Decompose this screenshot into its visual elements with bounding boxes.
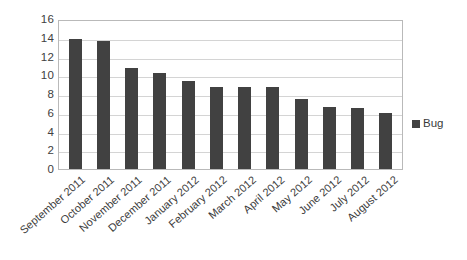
bar-slot <box>259 21 287 169</box>
y-axis-tick: 4 <box>47 127 54 139</box>
y-axis-tick: 14 <box>41 33 54 45</box>
chart-legend: Bug <box>412 118 443 130</box>
bar-slot <box>146 21 174 169</box>
bar-slot <box>344 21 372 169</box>
y-axis-tick: 6 <box>47 108 54 120</box>
bar[interactable] <box>210 87 223 169</box>
y-axis-tick: 2 <box>47 146 54 158</box>
y-axis-tick: 16 <box>41 14 54 26</box>
bar-slot <box>202 21 230 169</box>
bar[interactable] <box>69 39 82 169</box>
bar-slot <box>315 21 343 169</box>
x-axis: September 2011October 2011November 2011D… <box>58 170 403 258</box>
y-axis: 1614121086420 <box>22 20 54 170</box>
bar[interactable] <box>351 108 364 169</box>
y-axis-tick: 12 <box>41 52 54 64</box>
bar[interactable] <box>153 73 166 169</box>
bar[interactable] <box>295 99 308 169</box>
y-axis-tick: 8 <box>47 89 54 101</box>
y-axis-tick: 0 <box>47 164 54 176</box>
bar[interactable] <box>323 107 336 169</box>
bar-series-bug <box>59 21 402 169</box>
bar[interactable] <box>125 68 138 169</box>
bar[interactable] <box>182 81 195 169</box>
bar-chart: 1614121086420 September 2011October 2011… <box>0 0 467 260</box>
bar[interactable] <box>97 41 110 169</box>
y-axis-tick: 10 <box>41 71 54 83</box>
bar-slot <box>372 21 400 169</box>
plot-area <box>58 20 403 170</box>
bar-slot <box>231 21 259 169</box>
legend-swatch-bug <box>412 120 420 128</box>
bar-slot <box>89 21 117 169</box>
legend-label-bug: Bug <box>423 118 443 130</box>
bar[interactable] <box>238 87 251 169</box>
bar-slot <box>174 21 202 169</box>
bar-slot <box>118 21 146 169</box>
bar-slot <box>61 21 89 169</box>
bar-slot <box>287 21 315 169</box>
bar[interactable] <box>379 113 392 169</box>
bar[interactable] <box>266 87 279 170</box>
